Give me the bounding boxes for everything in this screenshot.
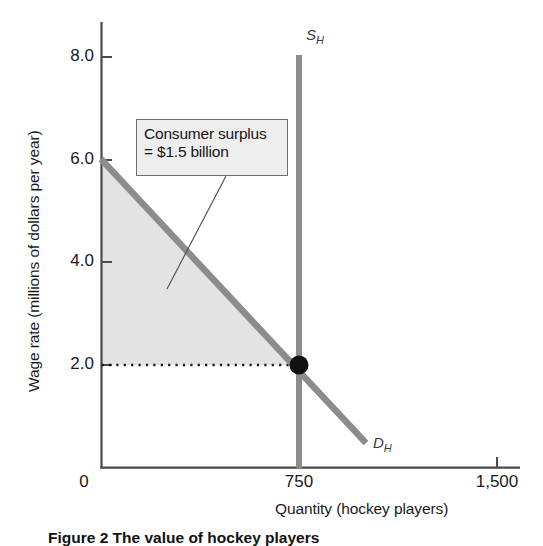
economics-supply-demand-chart — [0, 0, 543, 546]
demand-label-letter: D — [373, 434, 384, 451]
consumer-surplus-callout: Consumer surplus = $1.5 billion — [136, 119, 288, 176]
x-tick-label-1500: 1,500 — [459, 472, 535, 492]
y-tick-label-8: 8.0 — [52, 46, 94, 66]
figure-container: Wage rate (millions of dollars per year)… — [0, 0, 543, 546]
y-axis-title: Wage rate (millions of dollars per year) — [25, 130, 43, 392]
x-axis-title: Quantity (hockey players) — [275, 500, 448, 518]
supply-curve-label-SH: SH — [306, 26, 324, 46]
demand-label-subscript: H — [384, 442, 392, 454]
demand-curve-label-DH: DH — [373, 434, 392, 454]
y-tick-label-6: 6.0 — [52, 149, 94, 169]
y-tick-label-2: 2.0 — [52, 354, 94, 374]
figure-caption: Figure 2 The value of hockey players — [48, 529, 319, 546]
y-tick-label-4: 4.0 — [52, 251, 94, 271]
x-tick-label-0: 0 — [72, 472, 96, 492]
equilibrium-point-marker — [290, 356, 309, 375]
supply-label-subscript: H — [316, 34, 324, 46]
supply-label-letter: S — [306, 26, 316, 43]
x-tick-label-750: 750 — [269, 472, 329, 492]
callout-line-2: = $1.5 billion — [144, 143, 287, 161]
callout-line-1: Consumer surplus — [144, 125, 287, 143]
